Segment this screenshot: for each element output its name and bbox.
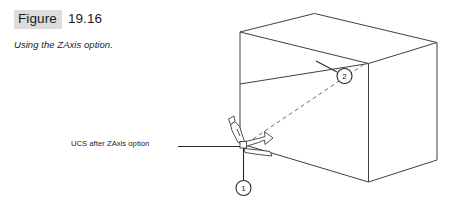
- ucs-y-axis-arrow: [244, 149, 272, 157]
- ucs-origin-box: [240, 142, 247, 149]
- callout-2[interactable]: 2: [316, 61, 352, 84]
- ucs-z-axis-arrow: [231, 122, 245, 143]
- cube-edge-bottom-left: [240, 144, 369, 183]
- figure-page: Figure 19.16 Using the ZAxis option. UCS…: [0, 0, 450, 205]
- cube-wireframe: [240, 14, 437, 183]
- isometric-cube-diagram: 2 1: [0, 0, 450, 205]
- ucs-axis-icon: [229, 116, 274, 180]
- cube-edge-bottom-right: [369, 160, 438, 182]
- callout-1[interactable]: 1: [236, 181, 251, 196]
- cube-top-face: [240, 14, 437, 64]
- callout-1-text: 1: [241, 184, 246, 193]
- callout-2-text: 2: [342, 72, 347, 81]
- ucs-x-axis-arrow: [243, 132, 273, 148]
